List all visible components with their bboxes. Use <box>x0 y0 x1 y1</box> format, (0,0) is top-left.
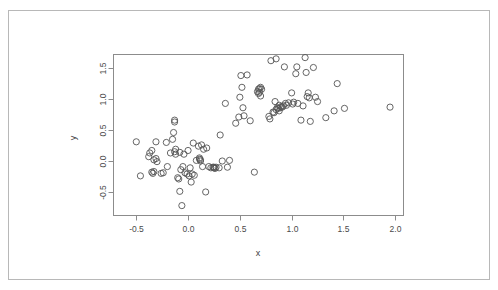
data-point <box>239 84 245 90</box>
data-point <box>247 118 253 124</box>
data-point <box>137 173 143 179</box>
data-point <box>188 179 194 185</box>
data-point <box>185 147 191 153</box>
y-axis-tick-labels: -0.50.00.51.01.5 <box>98 62 108 200</box>
y-axis-title: y <box>68 135 78 140</box>
data-point <box>133 139 139 145</box>
x-tick-label: -0.5 <box>129 224 144 234</box>
data-point <box>224 164 230 170</box>
data-point <box>298 117 304 123</box>
y-axis-tick-marks <box>109 69 114 193</box>
y-tick-label: 1.5 <box>98 62 108 74</box>
data-point <box>238 72 244 78</box>
data-point <box>237 94 243 100</box>
data-point <box>310 64 316 70</box>
y-tick-label: 0.5 <box>98 124 108 136</box>
data-point <box>177 188 183 194</box>
data-point <box>251 169 257 175</box>
data-point <box>281 64 287 70</box>
x-tick-label: 1.5 <box>338 224 350 234</box>
data-point <box>170 129 176 135</box>
data-point <box>302 55 308 61</box>
data-point <box>187 165 193 171</box>
plot-area-box <box>114 55 404 216</box>
y-tick-label: -0.5 <box>98 185 108 200</box>
data-point <box>222 100 228 106</box>
x-tick-label: 1.0 <box>287 224 299 234</box>
x-tick-label: 2.0 <box>390 224 402 234</box>
data-point <box>307 118 313 124</box>
data-point <box>303 69 309 75</box>
data-point <box>169 136 175 142</box>
scatter-plot: -0.50.00.51.01.52.0 -0.50.00.51.01.5 x y <box>0 0 498 290</box>
data-point <box>199 163 205 169</box>
data-point <box>289 90 295 96</box>
x-axis-tick-marks <box>137 216 396 221</box>
y-tick-label: 0.0 <box>98 155 108 167</box>
data-point <box>203 189 209 195</box>
data-point <box>272 98 278 104</box>
x-axis-title: x <box>256 248 261 258</box>
data-point <box>179 202 185 208</box>
data-point <box>226 157 232 163</box>
x-tick-label: 0.5 <box>235 224 247 234</box>
data-point <box>300 103 306 109</box>
y-tick-label: 1.0 <box>98 93 108 105</box>
data-point <box>240 105 246 111</box>
x-tick-label: 0.0 <box>183 224 195 234</box>
data-point <box>164 163 170 169</box>
data-point <box>323 115 329 121</box>
data-point <box>294 64 300 70</box>
data-point <box>217 132 223 138</box>
data-point <box>341 105 347 111</box>
x-axis-tick-labels: -0.50.00.51.01.52.0 <box>129 224 402 234</box>
data-point <box>153 139 159 145</box>
data-point <box>387 104 393 110</box>
data-point <box>334 81 340 87</box>
data-point <box>233 120 239 126</box>
figure-root: -0.50.00.51.01.52.0 -0.50.00.51.01.5 x y <box>0 0 498 290</box>
data-point <box>163 139 169 145</box>
data-point <box>293 71 299 77</box>
data-point-series <box>133 55 393 209</box>
data-point <box>331 108 337 114</box>
data-point <box>219 158 225 164</box>
data-point <box>244 72 250 78</box>
